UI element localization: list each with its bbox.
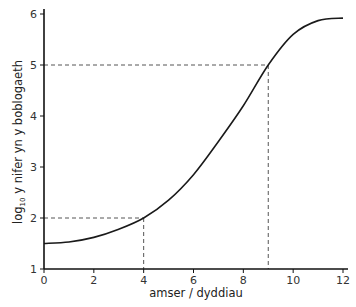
x-axis-ticks: 024681012: [41, 269, 351, 287]
y-tick-label: 3: [30, 161, 37, 174]
x-tick-label: 2: [90, 274, 97, 287]
x-tick-label: 12: [336, 274, 350, 287]
y-axis-ticks: 123456: [30, 8, 44, 276]
y-tick-label: 5: [30, 59, 37, 72]
growth-curve: [44, 18, 343, 243]
x-tick-label: 0: [41, 274, 48, 287]
y-tick-label: 2: [30, 212, 37, 225]
x-axis-label: amser / dyddiau: [149, 286, 242, 300]
y-tick-label: 4: [30, 110, 37, 123]
dashed-guides: [44, 65, 268, 269]
y-tick-label: 1: [30, 263, 37, 276]
y-tick-label: 6: [30, 8, 37, 21]
x-tick-label: 10: [286, 274, 300, 287]
x-tick-label: 4: [140, 274, 147, 287]
y-axis-label: log10 y nifer yn y boblogaeth: [11, 60, 27, 224]
growth-chart: 123456 024681012 amser / dyddiau log10 y…: [0, 0, 356, 307]
